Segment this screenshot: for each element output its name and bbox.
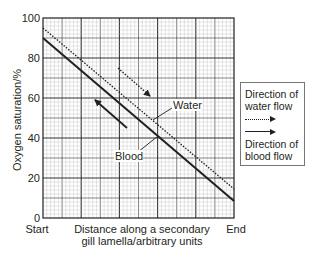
legend: Direction of water flow Direction of blo… — [240, 82, 305, 166]
legend-water-arrowhead-icon — [270, 116, 276, 122]
x-tick-start: Start — [25, 223, 48, 235]
y-tick-80: 80 — [28, 52, 40, 64]
y-axis-label: Oxygen saturation/% — [11, 69, 23, 171]
chart-grid — [43, 18, 234, 218]
legend-blood-line2: blood flow — [245, 150, 307, 163]
y-tick-20: 20 — [28, 172, 40, 184]
y-tick-40: 40 — [28, 132, 40, 144]
water-annotation: Water — [173, 99, 202, 111]
x-axis-label-line1: Distance along a secondary — [74, 223, 210, 235]
legend-water-dotted-arrow — [245, 119, 271, 120]
x-tick-end: End — [226, 223, 246, 235]
y-tick-100: 100 — [22, 12, 40, 24]
legend-blood-solid-arrow — [245, 131, 271, 132]
legend-water-line1: Direction of — [245, 88, 307, 101]
blood-annotation: Blood — [115, 150, 143, 162]
y-tick-60: 60 — [28, 92, 40, 104]
legend-blood-line1: Direction of — [245, 138, 307, 151]
legend-blood-arrowhead-icon — [270, 129, 276, 135]
y-axis-ticks: 100 80 60 40 20 0 — [22, 12, 40, 224]
x-axis-label-line2: gill lamella/arbitrary units — [81, 235, 203, 247]
legend-water-line2: water flow — [245, 100, 307, 113]
